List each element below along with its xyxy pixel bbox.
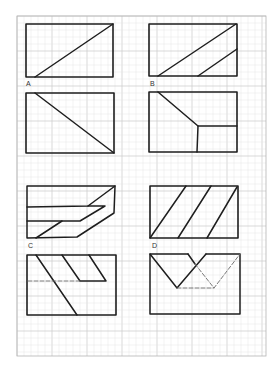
panel-c-bottom xyxy=(27,255,116,315)
drawing-panels xyxy=(26,24,240,315)
panel-d-bottom xyxy=(150,254,240,314)
label-d: D xyxy=(152,242,157,249)
label-b: B xyxy=(150,80,155,87)
orthographic-views-diagram xyxy=(0,0,280,368)
panel-b-bottom xyxy=(149,92,237,152)
panel-a-top xyxy=(26,24,113,77)
label-c: C xyxy=(28,242,33,249)
label-a: A xyxy=(26,80,31,87)
panel-b-top xyxy=(149,24,237,76)
